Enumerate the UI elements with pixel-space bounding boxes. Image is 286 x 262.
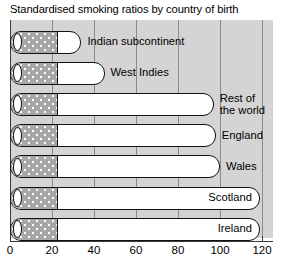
cigarette-mouth-icon <box>13 158 22 176</box>
x-tick-label-60: 60 <box>130 244 143 256</box>
bar-row: Wales <box>0 155 286 178</box>
cigarette-mouth-icon <box>13 189 22 207</box>
cigarette-bar <box>10 93 214 116</box>
cigarette-mouth-icon <box>13 95 22 113</box>
x-tick-label-40: 40 <box>88 244 101 256</box>
cigarette-mouth-icon <box>13 220 22 238</box>
bar-label: England <box>222 129 263 142</box>
cigarette-bar <box>10 62 105 85</box>
x-tick-label-80: 80 <box>172 244 185 256</box>
cigarette-mouth-icon <box>13 33 22 51</box>
bar-label: Rest ofthe world <box>220 92 265 117</box>
x-tick-label-0: 0 <box>7 244 13 256</box>
bar-row: Ireland <box>0 218 286 241</box>
x-tick-label-120: 120 <box>252 244 271 256</box>
bar-label: Ireland <box>218 222 252 235</box>
bar-row: Scotland <box>0 187 286 210</box>
bar-row: Indian subcontinent <box>0 31 286 54</box>
bar-label: West Indies <box>111 66 169 79</box>
x-tick-label-100: 100 <box>210 244 229 256</box>
cigarette-bar <box>10 155 220 178</box>
cigarette-mouth-icon <box>13 127 22 145</box>
cigarette-mouth-icon <box>13 64 22 82</box>
bar-row: England <box>0 124 286 147</box>
bar-row: Rest ofthe world <box>0 93 286 116</box>
bar-label: Scotland <box>208 191 252 204</box>
cigarette-bar <box>10 124 216 147</box>
chart-title: Standardised smoking ratios by country o… <box>10 3 239 15</box>
bar-label: Indian subcontinent <box>87 35 184 48</box>
x-axis-line <box>10 241 273 242</box>
smoking-ratios-chart-figure: Standardised smoking ratios by country o… <box>0 0 286 262</box>
bar-row: West Indies <box>0 62 286 85</box>
x-tick-label-20: 20 <box>46 244 59 256</box>
bar-label: Wales <box>226 160 257 173</box>
